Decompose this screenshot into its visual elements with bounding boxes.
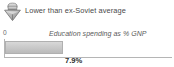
caption-label: Lower than ex-Soviet average — [25, 6, 126, 16]
education-spending-bar-chart: 0 Education spending as % GNP 7.9% — [0, 28, 174, 67]
chart-series-label: Education spending as % GNP — [49, 29, 146, 38]
caption-row: Lower than ex-Soviet average — [0, 0, 174, 26]
bar-education-spending — [5, 41, 63, 54]
x-axis-baseline — [4, 57, 172, 58]
bar-track: 7.9% — [5, 41, 173, 54]
comparison-indicator-widget: Lower than ex-Soviet average 0 Education… — [0, 0, 174, 67]
x-axis-tick-0: 0 — [3, 29, 7, 37]
lower-than-average-icon — [3, 2, 22, 22]
